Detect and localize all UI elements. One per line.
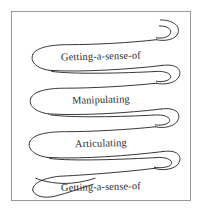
band-label-4: Getting-a-sense-of [61,180,141,193]
turn-right-2-inner [51,115,170,125]
band-label-3: Articulating [75,137,127,149]
band-2-bottom-edge [49,109,162,115]
band-3-left-turn [29,142,47,158]
band-1-bottom-edge [50,65,163,71]
band-3-bottom-edge [48,152,164,158]
turn-right-2 [155,109,178,128]
spiral-diagram: Getting-a-sense-of Manipulating Articula… [12,12,190,200]
turn-right-1-inner [52,71,171,81]
turn-right-1 [156,65,179,84]
turn-right-3-inner [50,157,172,167]
spiral-start-hook [156,20,178,41]
spiral-ribbon-strokes [29,20,180,197]
band-label-1: Getting-a-sense-of [61,50,141,63]
band-2-left-turn [30,98,48,114]
band-1-left-turn [32,55,50,71]
spiral-start-hook-inner [156,26,170,38]
figure-frame: Getting-a-sense-of Manipulating Articula… [11,11,191,201]
band-label-2: Manipulating [72,93,130,105]
